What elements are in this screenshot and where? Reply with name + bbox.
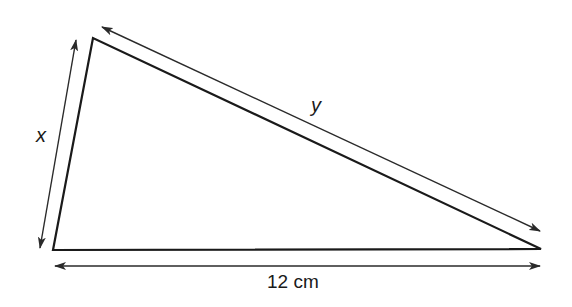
label-y: y: [311, 95, 321, 115]
label-base-length: 12 cm: [267, 272, 319, 291]
dimension-arrow-y: [102, 27, 540, 231]
label-x: x: [36, 125, 46, 145]
triangle-shape: [53, 38, 541, 250]
triangle-diagram: [0, 0, 572, 307]
